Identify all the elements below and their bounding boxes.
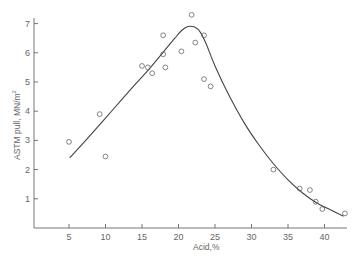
- x-tick-label: 40: [319, 232, 329, 242]
- data-point: [163, 65, 168, 70]
- y-axis-label: ASTM pull, MN/m2: [11, 89, 22, 160]
- x-tick-label: 20: [173, 232, 183, 242]
- x-tick-label: 15: [137, 232, 147, 242]
- x-tick-label: 10: [100, 232, 110, 242]
- x-tick-label: 35: [283, 232, 293, 242]
- data-point: [103, 154, 108, 159]
- y-tick-label: 2: [25, 165, 30, 175]
- data-point: [97, 112, 102, 117]
- y-tick-label: 3: [25, 135, 30, 145]
- chart: 1234567 510152025303540 Acid,% ASTM pull…: [0, 0, 357, 265]
- data-point: [193, 40, 198, 45]
- y-tick-label: 1: [25, 194, 30, 204]
- y-tick-label: 6: [25, 48, 30, 58]
- y-tick-label: 7: [25, 19, 30, 29]
- data-point: [320, 207, 325, 212]
- x-axis: 510152025303540: [34, 224, 347, 242]
- data-point: [189, 12, 194, 17]
- x-tick-label: 30: [246, 232, 256, 242]
- y-tick-label: 5: [25, 77, 30, 87]
- x-tick-label: 5: [66, 232, 71, 242]
- data-point: [150, 71, 155, 76]
- data-point: [179, 49, 184, 54]
- data-point: [145, 65, 150, 70]
- x-tick-label: 25: [210, 232, 220, 242]
- data-point: [202, 77, 207, 82]
- fitted-curve: [70, 26, 344, 216]
- x-axis-label: Acid,%: [193, 242, 220, 252]
- data-point: [271, 167, 276, 172]
- data-point: [343, 211, 348, 216]
- y-tick-label: 4: [25, 106, 30, 116]
- data-point: [308, 188, 313, 193]
- y-axis: 1234567: [25, 18, 38, 228]
- data-point: [140, 64, 145, 69]
- data-point: [208, 84, 213, 89]
- data-point: [161, 33, 166, 38]
- data-point: [67, 139, 72, 144]
